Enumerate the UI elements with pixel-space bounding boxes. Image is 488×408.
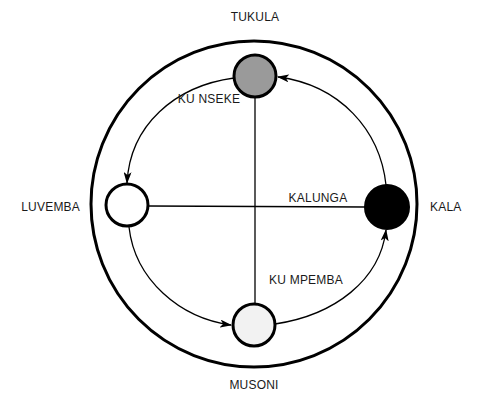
label-luvemba: LUVEMBA bbox=[21, 200, 80, 214]
label-musoni: MUSONI bbox=[229, 378, 278, 392]
node-luvemba bbox=[106, 184, 148, 226]
node-tukula bbox=[234, 55, 276, 97]
node-musoni bbox=[233, 304, 275, 346]
cosmogram-diagram: TUKULA KALA MUSONI LUVEMBA KALUNGA KU NS… bbox=[0, 0, 488, 408]
label-tukula: TUKULA bbox=[231, 10, 280, 24]
label-ku-nseke: KU NSEKE bbox=[178, 92, 240, 106]
kalunga-line bbox=[149, 206, 365, 207]
arc-kala-to-tukula bbox=[278, 77, 386, 185]
label-ku-mpemba: KU MPEMBA bbox=[269, 273, 343, 287]
arc-luvemba-to-musoni bbox=[129, 227, 231, 325]
node-kala bbox=[365, 185, 409, 229]
label-kala: KALA bbox=[430, 200, 462, 214]
label-kalunga: KALUNGA bbox=[289, 191, 348, 205]
